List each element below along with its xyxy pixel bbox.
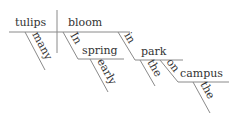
subject-word: tulips: [15, 16, 47, 29]
object-3-word: campus: [180, 67, 223, 80]
object-1-word: spring: [82, 44, 118, 57]
object-1-modifier-word: early: [94, 56, 119, 88]
diagram-canvas: tulips bloom many In spring early in par…: [0, 0, 233, 117]
object-2-word: park: [141, 45, 167, 58]
sentence-diagram: tulips bloom many In spring early in par…: [0, 0, 233, 117]
predicate-word: bloom: [68, 16, 103, 29]
subject-modifier-word: many: [29, 29, 55, 63]
